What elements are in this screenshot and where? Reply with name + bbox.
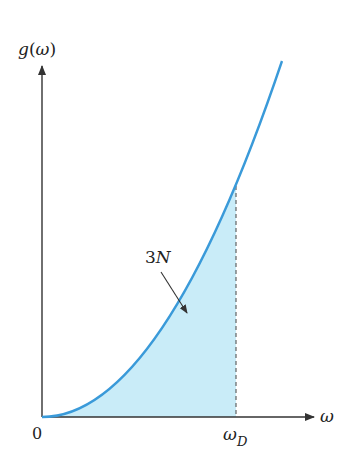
debye-diagram: g(ω) ω 0 ωD 3N [0, 0, 354, 460]
area-label: 3N [145, 247, 172, 267]
x-axis-label: ω [320, 406, 334, 426]
shaded-area [42, 184, 236, 417]
y-axis-label: g(ω) [18, 39, 56, 59]
cutoff-label: ωD [223, 424, 248, 449]
origin-label: 0 [32, 424, 42, 443]
